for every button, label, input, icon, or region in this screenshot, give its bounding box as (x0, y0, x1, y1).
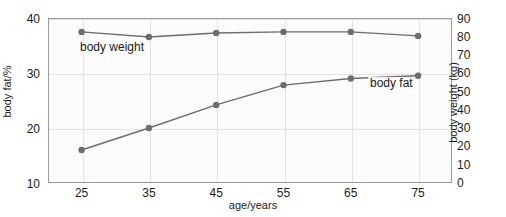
data-point (348, 29, 354, 35)
x-axis-tick-label: 45 (196, 187, 236, 199)
y-axis-tick-label: 40 (0, 13, 40, 25)
y2-axis-title: body weight (kg) (448, 53, 459, 153)
series-label-body-fat: body fat (368, 77, 415, 89)
y2-axis-tick-label: 30 (457, 122, 497, 134)
data-point (415, 73, 421, 79)
y2-axis-tick-label: 80 (457, 31, 497, 43)
data-point (146, 34, 152, 40)
data-point (348, 75, 354, 81)
y2-axis-tick-label: 60 (457, 67, 497, 79)
data-point (78, 147, 84, 153)
y2-axis-tick-label: 20 (457, 140, 497, 152)
y2-axis-tick-label: 90 (457, 13, 497, 25)
x-axis-tick-label: 65 (331, 187, 371, 199)
x-axis-tick-label: 75 (398, 187, 438, 199)
y2-axis-tick-label: 10 (457, 159, 497, 171)
data-point (415, 33, 421, 39)
series-body-weight (78, 29, 421, 41)
data-point (213, 102, 219, 108)
data-point (78, 29, 84, 35)
data-point (213, 30, 219, 36)
x-axis-title: age/years (203, 200, 303, 211)
y-axis-tick-label: 10 (0, 178, 40, 190)
data-point (280, 82, 286, 88)
y2-axis-tick-label: 70 (457, 49, 497, 61)
y2-axis-tick-label: 50 (457, 86, 497, 98)
y2-axis-tick-label: 40 (457, 104, 497, 116)
x-axis-tick-label: 35 (129, 187, 169, 199)
x-axis-tick-label: 25 (62, 187, 102, 199)
x-axis-tick-label: 55 (264, 187, 304, 199)
series-body-weight-line (82, 32, 419, 37)
y2-axis-tick-label: 0 (457, 177, 497, 189)
series-label-body-weight: body weight (78, 41, 146, 53)
data-point (146, 125, 152, 131)
y-axis-title: body fat/% (2, 52, 13, 132)
data-point (280, 29, 286, 35)
chart-figure: body weight body fat 40 30 20 10 90 80 7… (0, 0, 506, 217)
